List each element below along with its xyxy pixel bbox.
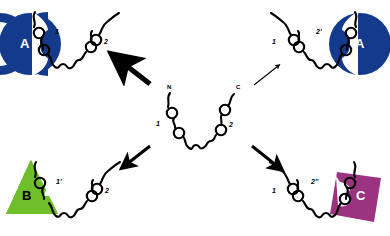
arrow-bottom-right (252, 146, 277, 166)
arrow-bottom-left (127, 146, 150, 164)
partner-shape-a-top-left (0, 12, 61, 76)
arrow-top-left (123, 63, 150, 84)
partner-label-a-top-right: A (355, 36, 364, 51)
diagram-canvas: N C 1 2 A 1 2 A 2' 1 B 1' 2 C 2'' 1 (0, 0, 390, 236)
arrow-top-right (254, 66, 278, 85)
partner-label-b: B (22, 188, 31, 203)
diagram-vector-layer (0, 0, 390, 236)
partner-label-c: C (356, 188, 365, 203)
partner-label-a-top-left: A (20, 36, 29, 51)
chain-free-state (167, 93, 234, 149)
